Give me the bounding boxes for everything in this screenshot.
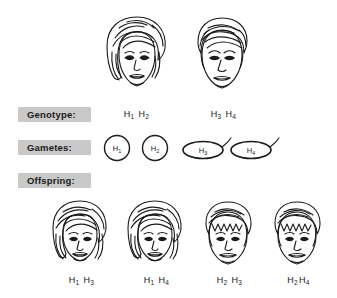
- genotype-offspring-4: H2H4: [287, 275, 310, 285]
- parent-figure-father: [182, 8, 262, 100]
- genotype-offspring-4-allele-a: H2: [287, 275, 299, 285]
- genotype-offspring-2-allele-b: H4: [159, 275, 171, 285]
- genotype-mother-allele-b: H2: [139, 109, 151, 119]
- genotype-mother-allele-a: H1: [124, 109, 136, 119]
- parent-figure-mother: [97, 8, 177, 100]
- row-label-offspring-text: Offspring:: [27, 175, 75, 186]
- gamete-sperm-h3: H3: [181, 136, 235, 162]
- genotype-offspring-3: H2H3: [217, 275, 243, 285]
- row-label-gametes: Gametes:: [18, 140, 91, 155]
- genotype-offspring-2: H1H4: [144, 275, 170, 285]
- genotype-father-allele-a: H3: [211, 109, 223, 119]
- gamete-egg-h2: H2: [140, 133, 170, 163]
- offspring-figure-2: [119, 197, 191, 269]
- genotype-offspring-3-allele-a: H2: [217, 275, 229, 285]
- offspring-figure-3: [192, 197, 264, 269]
- gamete-sperm-h4: H4: [229, 136, 283, 162]
- genotype-offspring-4-allele-b: H4: [299, 275, 311, 285]
- row-label-genotype: Genotype:: [18, 107, 91, 122]
- offspring-figure-1: [44, 197, 116, 269]
- genotype-offspring-1-allele-a: H1: [69, 275, 81, 285]
- genotype-mother: H1H2: [124, 109, 150, 119]
- row-label-genotype-text: Genotype:: [27, 109, 76, 120]
- genotype-father-allele-b: H4: [226, 109, 238, 119]
- row-label-gametes-text: Gametes:: [27, 142, 72, 153]
- genotype-offspring-2-allele-a: H1: [144, 275, 156, 285]
- genotype-offspring-3-allele-b: H3: [232, 275, 244, 285]
- row-label-offspring: Offspring:: [18, 173, 91, 188]
- genotype-father: H3H4: [211, 109, 237, 119]
- genotype-offspring-1-allele-b: H3: [84, 275, 96, 285]
- gamete-egg-h1: H1: [102, 133, 132, 163]
- offspring-figure-4: [261, 197, 333, 269]
- haplotype-inheritance-diagram: H1H2 H3H4 Genotype: Gametes: Offspring: …: [0, 0, 337, 298]
- genotype-offspring-1: H1H3: [69, 275, 95, 285]
